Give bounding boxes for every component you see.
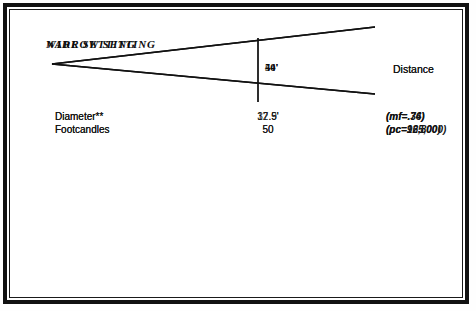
wide-setting-title: WIDE SETTING	[46, 38, 136, 50]
panel-wide-setting: WIDE SETTING 44' Distance Diameter** Foo…	[0, 144, 476, 288]
wide-note-pc: (pc=96,800)	[386, 124, 441, 137]
wide-row-values: 32.5' 50	[228, 111, 308, 136]
wide-beam-height-label: 44'	[265, 62, 278, 73]
wide-diameter-label: Diameter**	[55, 111, 109, 124]
wide-footcandles-label: Footcandles	[55, 124, 109, 137]
figure-content: NARROW SETTING 50' Distance Diameter** F…	[0, 0, 476, 311]
wide-note-mf: (mf=.74)	[386, 111, 441, 124]
wide-distance-axis-label: Distance	[393, 63, 434, 75]
figure-page: NARROW SETTING 50' Distance Diameter** F…	[0, 0, 476, 311]
wide-row-notes: (mf=.74) (pc=96,800)	[386, 111, 441, 136]
wide-row-labels: Diameter** Footcandles	[55, 111, 109, 136]
wide-diameter-value: 32.5'	[228, 111, 308, 124]
wide-footcandles-value: 50	[228, 124, 308, 137]
wide-lower-ray	[52, 64, 375, 94]
